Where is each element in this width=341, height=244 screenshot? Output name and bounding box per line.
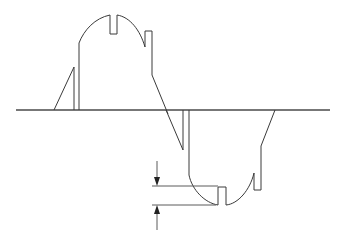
waveform-diagram (0, 0, 341, 244)
positive-half-cycle (54, 15, 168, 114)
negative-half-cycle (166, 110, 275, 205)
arrow-up-icon (154, 205, 160, 214)
notch-depth-dimension (152, 161, 218, 230)
arrow-down-icon (154, 177, 160, 186)
